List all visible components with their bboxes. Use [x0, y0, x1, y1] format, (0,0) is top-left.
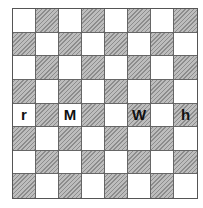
board-square[interactable]	[13, 9, 36, 33]
board-square[interactable]	[105, 174, 128, 198]
board-square[interactable]	[105, 104, 128, 128]
board-square[interactable]	[59, 174, 82, 198]
board-square[interactable]	[82, 9, 105, 33]
board-square[interactable]	[36, 33, 59, 57]
game-piece[interactable]: r	[21, 107, 27, 122]
board-square[interactable]	[13, 127, 36, 151]
board-square[interactable]	[59, 127, 82, 151]
board-square[interactable]: r	[13, 104, 36, 128]
board-square[interactable]	[82, 104, 105, 128]
board-square[interactable]	[36, 174, 59, 198]
board-square[interactable]	[105, 151, 128, 175]
board-square[interactable]	[151, 56, 174, 80]
board-square[interactable]	[82, 151, 105, 175]
board-square[interactable]	[59, 9, 82, 33]
board-square[interactable]	[36, 104, 59, 128]
board-square[interactable]	[36, 9, 59, 33]
board-square[interactable]	[13, 33, 36, 57]
board-square[interactable]	[105, 127, 128, 151]
board-square[interactable]	[174, 80, 197, 104]
game-piece[interactable]: h	[181, 107, 190, 122]
board-square[interactable]: M	[59, 104, 82, 128]
board-square[interactable]	[13, 56, 36, 80]
board-square[interactable]	[82, 127, 105, 151]
board-square[interactable]	[128, 151, 151, 175]
board-square[interactable]	[13, 151, 36, 175]
board-square[interactable]	[82, 174, 105, 198]
board-square[interactable]	[36, 80, 59, 104]
board-square[interactable]	[151, 151, 174, 175]
board-square[interactable]	[13, 80, 36, 104]
board-square[interactable]: h	[174, 104, 197, 128]
board-square[interactable]	[174, 9, 197, 33]
board-square[interactable]	[151, 174, 174, 198]
board-square[interactable]	[174, 151, 197, 175]
board-square[interactable]	[82, 33, 105, 57]
board-square[interactable]	[174, 56, 197, 80]
board-square[interactable]	[59, 56, 82, 80]
board-square[interactable]	[105, 9, 128, 33]
game-piece[interactable]: W	[132, 107, 146, 122]
game-board: rMWh	[12, 8, 198, 199]
board-square[interactable]	[59, 151, 82, 175]
board-square[interactable]	[151, 33, 174, 57]
board-square[interactable]	[151, 104, 174, 128]
board-square[interactable]	[151, 127, 174, 151]
board-square[interactable]	[174, 33, 197, 57]
board-square[interactable]	[82, 56, 105, 80]
board-square[interactable]	[105, 56, 128, 80]
board-square[interactable]	[151, 80, 174, 104]
board-square[interactable]	[59, 33, 82, 57]
board-square[interactable]	[59, 80, 82, 104]
board-square[interactable]	[128, 80, 151, 104]
board-square[interactable]	[128, 33, 151, 57]
board-square[interactable]	[82, 80, 105, 104]
board-square[interactable]	[151, 9, 174, 33]
board-square[interactable]	[174, 127, 197, 151]
board-square[interactable]	[36, 151, 59, 175]
board-square[interactable]	[36, 127, 59, 151]
board-square[interactable]	[174, 174, 197, 198]
board-square[interactable]: W	[128, 104, 151, 128]
board-square[interactable]	[105, 33, 128, 57]
board-square[interactable]	[128, 127, 151, 151]
board-square[interactable]	[105, 80, 128, 104]
game-piece[interactable]: M	[64, 107, 77, 122]
board-square[interactable]	[36, 56, 59, 80]
board-square[interactable]	[13, 174, 36, 198]
board-square[interactable]	[128, 174, 151, 198]
board-square[interactable]	[128, 56, 151, 80]
board-square[interactable]	[128, 9, 151, 33]
